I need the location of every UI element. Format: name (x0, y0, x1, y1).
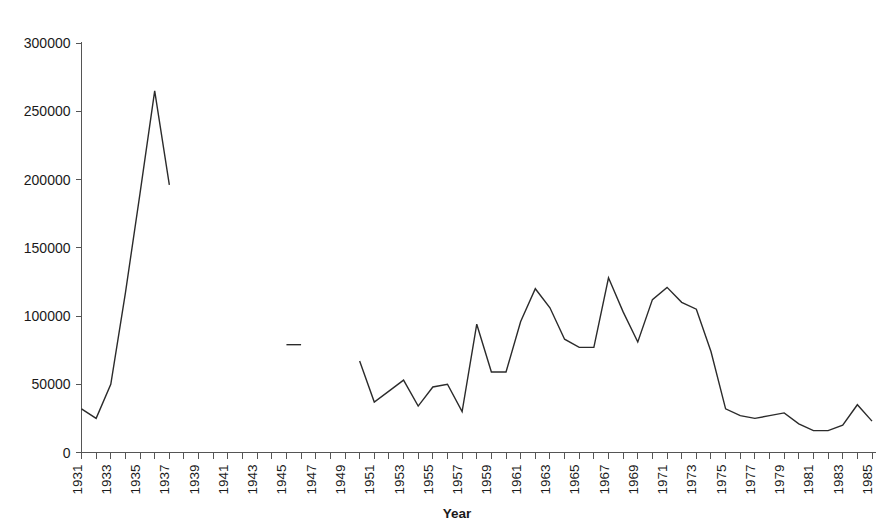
x-tick-label: 1955 (421, 465, 436, 495)
x-tick-label: 1959 (479, 465, 494, 495)
y-tick-label: 150000 (24, 240, 71, 256)
x-axis: 1931193319351937193919411943194519471949… (70, 453, 877, 495)
y-tick-label: 250000 (24, 103, 71, 119)
x-tick-label: 1941 (216, 465, 231, 495)
y-tick-label: 0 (63, 445, 71, 461)
x-tick-label: 1979 (772, 465, 787, 495)
segment-1950-1985 (360, 278, 872, 431)
x-tick-label: 1973 (684, 465, 699, 495)
x-tick-label: 1951 (362, 465, 377, 495)
x-tick-label: 1935 (128, 465, 143, 495)
segment-1931-1937 (82, 91, 170, 419)
x-tick-label: 1953 (392, 465, 407, 495)
x-tick-label: 1971 (655, 465, 670, 495)
x-tick-label: 1949 (333, 465, 348, 495)
x-axis-title: Year (443, 506, 472, 521)
y-tick-label: 200000 (24, 172, 71, 188)
x-tick-label: 1945 (274, 465, 289, 495)
x-tick-label: 1947 (304, 465, 319, 495)
x-tick-label: 1967 (597, 465, 612, 495)
x-tick-label: 1933 (99, 465, 114, 495)
x-tick-label: 1963 (538, 465, 553, 495)
y-tick-label: 50000 (32, 376, 71, 392)
x-tick-label: 1943 (245, 465, 260, 495)
data-series (82, 91, 873, 431)
line-chart: 050000100000150000200000250000300000 193… (0, 0, 894, 531)
x-tick-label: 1969 (626, 465, 641, 495)
x-tick-label: 1957 (450, 465, 465, 495)
y-axis: 050000100000150000200000250000300000 (24, 35, 82, 461)
x-tick-label: 1985 (860, 465, 875, 495)
y-tick-label: 300000 (24, 35, 71, 51)
x-tick-label: 1965 (567, 465, 582, 495)
x-tick-label: 1983 (831, 465, 846, 495)
x-tick-label: 1977 (743, 465, 758, 495)
x-tick-label: 1975 (714, 465, 729, 495)
x-tick-label: 1937 (157, 465, 172, 495)
x-tick-label: 1931 (70, 465, 85, 495)
y-tick-label: 100000 (24, 308, 71, 324)
x-tick-label: 1939 (187, 465, 202, 495)
chart-container: 050000100000150000200000250000300000 193… (0, 0, 894, 531)
x-tick-label: 1981 (801, 465, 816, 495)
x-tick-label: 1961 (509, 465, 524, 495)
